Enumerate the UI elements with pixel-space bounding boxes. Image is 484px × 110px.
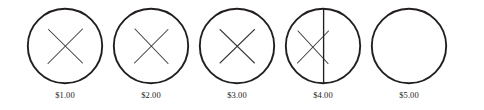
- coin-label: $5.00: [399, 90, 419, 101]
- coin-circle-with-x: [112, 7, 190, 85]
- coin-label: $1.00: [55, 90, 75, 101]
- coin-circle-empty: [370, 7, 448, 85]
- coin-label: $4.00: [313, 90, 333, 101]
- x-mark-icon: [48, 29, 83, 64]
- coin-circle-with-x-and-line: [284, 7, 362, 85]
- circle-outline: [372, 9, 446, 83]
- coin-label: $3.00: [227, 90, 247, 101]
- coin-circle-with-x: [26, 7, 104, 85]
- coin-item: $4.00: [280, 0, 366, 110]
- coin-label: $2.00: [141, 90, 161, 101]
- coin-item: $2.00: [108, 0, 194, 110]
- coin-item: $3.00: [194, 0, 280, 110]
- coin-item: $1.00: [22, 0, 108, 110]
- x-mark-icon: [220, 30, 255, 64]
- x-mark-icon: [135, 29, 169, 64]
- coin-row: $1.00 $2.00 $3.00 $4.00: [0, 0, 484, 110]
- coin-circle-with-x: [198, 7, 276, 85]
- coin-item: $5.00: [366, 0, 452, 110]
